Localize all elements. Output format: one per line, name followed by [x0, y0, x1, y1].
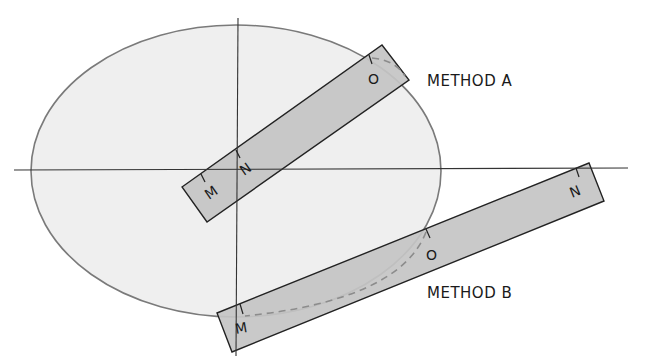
method-b-label: METHOD B	[427, 284, 512, 302]
ellipse-construction-diagram: MNOMON METHOD A METHOD B	[0, 0, 645, 360]
method-a-label: METHOD A	[427, 72, 512, 90]
point-label-o: O	[426, 247, 437, 263]
point-label-o: O	[368, 71, 379, 87]
